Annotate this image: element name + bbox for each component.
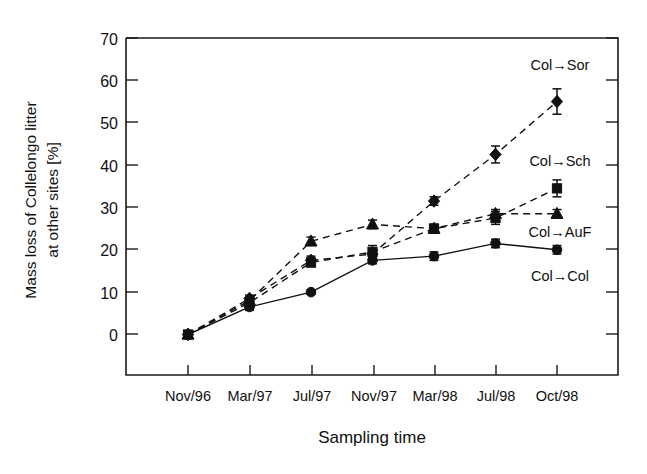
x-tick-label-4: Mar/98 bbox=[412, 388, 457, 404]
y-axis-label: Mass loss of Collelongo litter at other … bbox=[22, 101, 61, 298]
x-tick-label-2: Jul/97 bbox=[293, 388, 332, 404]
x-axis-ticks bbox=[188, 365, 557, 375]
y-axis-label-line-1: Mass loss of Collelongo litter bbox=[22, 101, 39, 298]
y-tick-label-70: 70 bbox=[100, 31, 118, 48]
data-point bbox=[552, 245, 562, 255]
x-axis-label: Sampling time bbox=[318, 428, 426, 447]
chart-svg: Mass loss of Collelongo litter at other … bbox=[0, 0, 647, 474]
y-axis-label-line-2: at other sites [%] bbox=[44, 142, 61, 257]
y-tick-label-50: 50 bbox=[100, 115, 118, 132]
series-colsor bbox=[182, 89, 562, 341]
y-tick-label-0: 0 bbox=[109, 327, 118, 344]
y-axis-tick-labels: 70 60 50 40 30 20 10 0 bbox=[100, 31, 118, 344]
data-point bbox=[491, 239, 501, 249]
data-point bbox=[306, 258, 315, 267]
series-annotation: Col→Sch bbox=[529, 153, 590, 169]
axis-box bbox=[126, 38, 618, 375]
y-axis-ticks bbox=[126, 38, 618, 334]
plot-frame bbox=[126, 38, 618, 375]
data-point bbox=[429, 251, 439, 261]
y-tick-label-10: 10 bbox=[100, 285, 118, 302]
data-point bbox=[368, 256, 378, 266]
x-tick-label-6: Oct/98 bbox=[536, 388, 579, 404]
data-point bbox=[306, 287, 316, 297]
y-tick-label-40: 40 bbox=[100, 158, 118, 175]
series-annotation: Col→AuF bbox=[529, 224, 592, 240]
x-axis-tick-labels: Nov/96 Mar/97 Jul/97 Nov/97 Mar/98 Jul/9… bbox=[165, 388, 578, 404]
data-point bbox=[490, 148, 501, 160]
series-line bbox=[188, 214, 557, 335]
data-point bbox=[552, 184, 561, 193]
figure-container: Mass loss of Collelongo litter at other … bbox=[0, 0, 647, 474]
x-tick-label-1: Mar/97 bbox=[227, 388, 272, 404]
data-point bbox=[245, 302, 255, 312]
x-tick-label-3: Nov/97 bbox=[351, 388, 397, 404]
y-tick-label-20: 20 bbox=[100, 242, 118, 259]
data-point bbox=[551, 95, 562, 107]
x-tick-label-0: Nov/96 bbox=[165, 388, 211, 404]
series-annotation: Col→Sor bbox=[531, 57, 590, 73]
series-annotation: Col→Col bbox=[531, 268, 589, 284]
data-point bbox=[183, 330, 193, 340]
series-layer bbox=[182, 89, 563, 341]
y-tick-label-60: 60 bbox=[100, 73, 118, 90]
series-colauf bbox=[182, 207, 563, 339]
x-tick-label-5: Jul/98 bbox=[477, 388, 516, 404]
y-tick-label-30: 30 bbox=[100, 200, 118, 217]
